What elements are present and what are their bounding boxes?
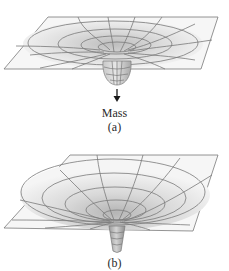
- down-arrow-icon: [114, 89, 121, 102]
- panel-b-mass-tube: [109, 226, 125, 253]
- panel-a-caption: (a): [0, 121, 229, 134]
- spacetime-curvature-figure: [0, 0, 229, 271]
- panel-b-spacetime-sheet: [4, 155, 218, 231]
- panel-b-caption: (b): [0, 257, 229, 270]
- panel-a-mass-bulb: [103, 61, 131, 85]
- mass-label: Mass: [0, 107, 229, 120]
